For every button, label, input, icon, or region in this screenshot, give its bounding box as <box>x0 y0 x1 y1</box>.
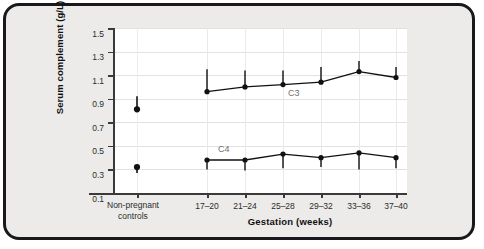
control-group-label-line1: Non-pregnant <box>90 200 176 211</box>
series-line-c4 <box>245 154 283 160</box>
series-line-c4 <box>283 154 321 158</box>
data-point-c4 <box>318 155 323 160</box>
data-point-c4 <box>280 152 285 157</box>
data-point-c3 <box>393 75 398 80</box>
data-point-c4 <box>204 157 209 162</box>
data-point-c3 <box>318 80 323 85</box>
series-label-c3: C3 <box>288 88 300 98</box>
control-group-label: Non-pregnant controls <box>90 200 176 222</box>
data-point-c3 <box>280 82 285 87</box>
data-point-control-c3 <box>134 106 140 112</box>
data-point-control-c4 <box>134 164 140 170</box>
y-axis-title: Serum complement (g/L) <box>54 0 65 123</box>
data-point-c4 <box>356 150 361 155</box>
control-group-label-line2: controls <box>90 211 176 222</box>
series-line-c4 <box>359 153 396 158</box>
data-point-c3 <box>242 84 247 89</box>
series-line-c3 <box>245 85 283 87</box>
series-line-c3 <box>359 72 396 78</box>
series-label-c4: C4 <box>218 144 230 154</box>
data-point-c4 <box>242 157 247 162</box>
series-line-c3 <box>207 87 245 92</box>
data-point-c3 <box>204 89 209 94</box>
series-line-c3 <box>321 72 359 83</box>
series-line-c3 <box>283 82 321 84</box>
serum-complement-chart: 1.51.31.10.90.70.50.30.117–2021–2425–282… <box>0 0 484 249</box>
series-plot <box>0 0 484 249</box>
data-point-c3 <box>356 69 361 74</box>
x-axis-title: Gestation (weeks) <box>180 216 400 227</box>
series-line-c4 <box>321 153 359 158</box>
data-point-c4 <box>393 155 398 160</box>
